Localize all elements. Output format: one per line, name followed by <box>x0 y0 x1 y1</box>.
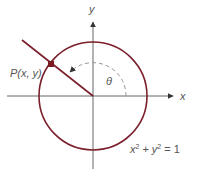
point-label: P(x, y) <box>10 67 42 79</box>
circle-equation: x2+y2=1 <box>129 143 180 155</box>
svg-text:x2+y2=1: x2+y2=1 <box>129 143 180 155</box>
angle-theta-label: θ <box>106 75 112 87</box>
x-axis-label: x <box>179 90 186 102</box>
point-p-marker <box>48 61 54 67</box>
unit-circle-diagram: y x P(x, y) θ x2+y2=1 <box>0 0 200 169</box>
angle-arc <box>70 63 126 96</box>
y-axis-label: y <box>88 3 96 15</box>
